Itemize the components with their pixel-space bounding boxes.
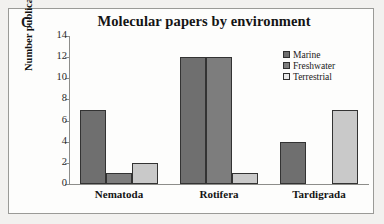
x-category-label-tardigrada: Tardigrada <box>269 188 369 200</box>
y-axis-line <box>69 36 70 184</box>
y-tick-label: 12 <box>37 50 67 61</box>
y-tick-label: 10 <box>37 71 67 82</box>
bar-rotifera-terrestrial <box>232 173 258 184</box>
y-tick-label: 14 <box>37 29 67 40</box>
x-category-label-nematoda: Nematoda <box>69 188 169 200</box>
y-tick-label: 4 <box>37 135 67 146</box>
y-tick-label: 6 <box>37 114 67 125</box>
x-category-label-rotifera: Rotifera <box>169 188 269 200</box>
bar-tardigrada-terrestrial <box>332 110 358 184</box>
y-tick-label: 8 <box>37 92 67 103</box>
y-axis-title: Number publications <box>23 0 34 71</box>
bar-rotifera-marine <box>180 57 206 184</box>
page-background: C Molecular papers by environment Number… <box>0 0 384 224</box>
bar-nematoda-marine <box>80 110 106 184</box>
plot-area: 02468101214 NematodaRotiferaTardigrada <box>69 36 369 184</box>
chart-title: Molecular papers by environment <box>49 13 359 30</box>
y-tick-label: 2 <box>37 156 67 167</box>
bar-tardigrada-marine <box>280 142 306 184</box>
bar-nematoda-freshwater <box>106 173 132 184</box>
bar-nematoda-terrestrial <box>132 163 158 184</box>
figure-frame: C Molecular papers by environment Number… <box>8 8 374 214</box>
x-axis-line <box>69 184 369 185</box>
bar-rotifera-freshwater <box>206 57 232 184</box>
y-tick-label: 0 <box>37 177 67 188</box>
